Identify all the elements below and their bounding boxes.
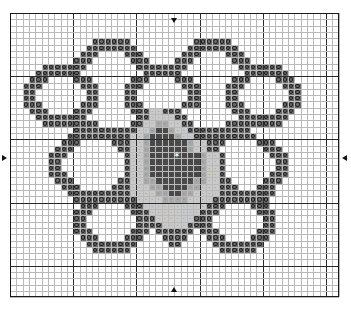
grid-line-horizontal (10, 165, 339, 166)
stitch-symbol (81, 84, 85, 88)
stitch-symbol (213, 197, 217, 201)
grid-line-major-horizontal (10, 13, 339, 14)
stitch-symbol (220, 197, 224, 201)
stitch-symbol (220, 166, 224, 170)
stitch-symbol (226, 84, 230, 88)
stitch-symbol (106, 39, 110, 43)
stitch-symbol (62, 153, 66, 157)
stitch-symbol (131, 242, 135, 246)
stitch-symbol (87, 77, 91, 81)
stitch-symbol (213, 210, 217, 214)
grid-line-major-horizontal (10, 139, 339, 140)
grid-line-horizontal (10, 146, 339, 147)
stitch-symbol (81, 102, 85, 106)
stitch-symbol (289, 96, 293, 100)
stitch-symbol (207, 134, 211, 138)
grid-line-vertical (332, 13, 333, 297)
stitch-symbol (43, 121, 47, 125)
stitch-symbol (137, 52, 141, 56)
stitch-symbol (125, 90, 129, 94)
stitch-symbol (270, 216, 274, 220)
grid-line-vertical (92, 13, 93, 297)
stitch-symbol (87, 229, 91, 233)
stitch-symbol (68, 178, 72, 182)
stitch-symbol (125, 242, 129, 246)
grid-line-vertical (313, 13, 314, 297)
stitch-symbol (125, 248, 129, 252)
grid-line-horizontal (10, 64, 339, 65)
stitch-symbol (24, 84, 28, 88)
stitch-symbol (112, 140, 116, 144)
stitch-symbol (74, 77, 78, 81)
stitch-symbol (81, 65, 85, 69)
stitch-symbol (232, 58, 236, 62)
stitch-symbol (169, 65, 173, 69)
stitch-symbol (188, 121, 192, 125)
stitch-symbol (220, 191, 224, 195)
stitch-symbol (131, 77, 135, 81)
stitch-symbol (239, 197, 243, 201)
stitch-symbol (251, 197, 255, 201)
stitch-symbol (118, 134, 122, 138)
grid-line-horizontal (10, 108, 339, 109)
stitch-symbol (49, 121, 53, 125)
stitch-symbol (125, 46, 129, 50)
grid-line-horizontal (10, 234, 339, 235)
grid-line-horizontal (10, 57, 339, 58)
stitch-symbol (257, 229, 261, 233)
stitch-symbol (144, 58, 148, 62)
stitch-symbol (93, 134, 97, 138)
grid-line-vertical (225, 13, 226, 297)
stitch-symbol (182, 58, 186, 62)
stitch-symbol (131, 84, 135, 88)
stitch-symbol (156, 65, 160, 69)
stitch-symbol (87, 121, 91, 125)
stitch-symbol (49, 153, 53, 157)
cross-stitch-chart[interactable]: ········································… (10, 13, 339, 297)
stitch-cell (294, 101, 300, 107)
stitch-symbol (36, 109, 40, 113)
stitch-symbol (175, 65, 179, 69)
stitch-symbol (201, 39, 205, 43)
stitch-symbol (207, 140, 211, 144)
stitch-symbol (55, 166, 59, 170)
stitch-symbol (131, 235, 135, 239)
stitch-symbol (137, 84, 141, 88)
stitch-symbol (207, 204, 211, 208)
stitch-symbol (276, 77, 280, 81)
stitch-symbol (87, 109, 91, 113)
stitch-symbol (226, 128, 230, 132)
stitch-symbol (30, 102, 34, 106)
grid-line-horizontal (10, 190, 339, 191)
stitch-symbol (201, 223, 205, 227)
stitch-symbol (93, 96, 97, 100)
grid-line-vertical (231, 13, 232, 297)
grid-line-vertical (282, 13, 283, 297)
stitch-symbol (257, 140, 261, 144)
stitch-symbol (201, 128, 205, 132)
grid-line-vertical (307, 13, 308, 297)
stitch-symbol (232, 109, 236, 113)
stitch-symbol (87, 128, 91, 132)
stitch-cell (73, 139, 79, 145)
stitch-symbol (99, 39, 103, 43)
grid-line-vertical (174, 13, 175, 297)
stitch-symbol (99, 46, 103, 50)
stitch-symbol (289, 90, 293, 94)
stitch-symbol (118, 242, 122, 246)
stitch-symbol (125, 84, 129, 88)
stitch-symbol (251, 134, 255, 138)
stitch-symbol (30, 90, 34, 94)
stitch-symbol (201, 216, 205, 220)
stitch-symbol (169, 229, 173, 233)
stitch-symbol (257, 65, 261, 69)
stitch-symbol (239, 115, 243, 119)
stitch-symbol (137, 65, 141, 69)
stitch-symbol (144, 77, 148, 81)
stitch-symbol (74, 121, 78, 125)
grid-line-vertical (130, 13, 131, 297)
stitch-symbol (213, 46, 217, 50)
grid-line-vertical (339, 13, 340, 297)
stitch-symbol (68, 115, 72, 119)
stitch-symbol (93, 121, 97, 125)
